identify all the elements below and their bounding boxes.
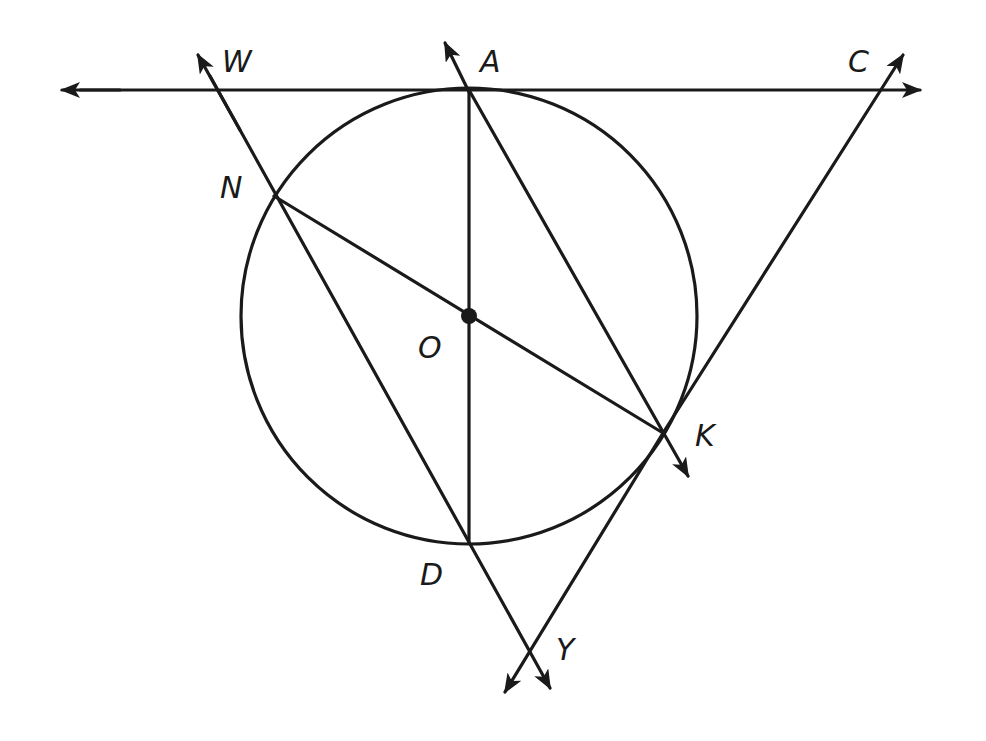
tangent-line-at-K-down-ray xyxy=(505,433,663,692)
label-Y: Y xyxy=(556,632,577,667)
line-A-K xyxy=(469,90,688,476)
label-N: N xyxy=(220,170,242,205)
tangent-line-at-K xyxy=(663,55,903,433)
center-point-O xyxy=(461,308,477,324)
geometry-diagram: W A C N O K D Y xyxy=(0,0,986,741)
line-W-N-D-Y xyxy=(210,76,550,688)
label-O: O xyxy=(418,330,442,365)
label-W: W xyxy=(222,44,253,79)
label-C: C xyxy=(848,44,869,79)
label-K: K xyxy=(695,418,717,453)
line-A-K-up-ray xyxy=(445,43,469,92)
label-D: D xyxy=(420,557,443,592)
label-A: A xyxy=(478,44,501,79)
